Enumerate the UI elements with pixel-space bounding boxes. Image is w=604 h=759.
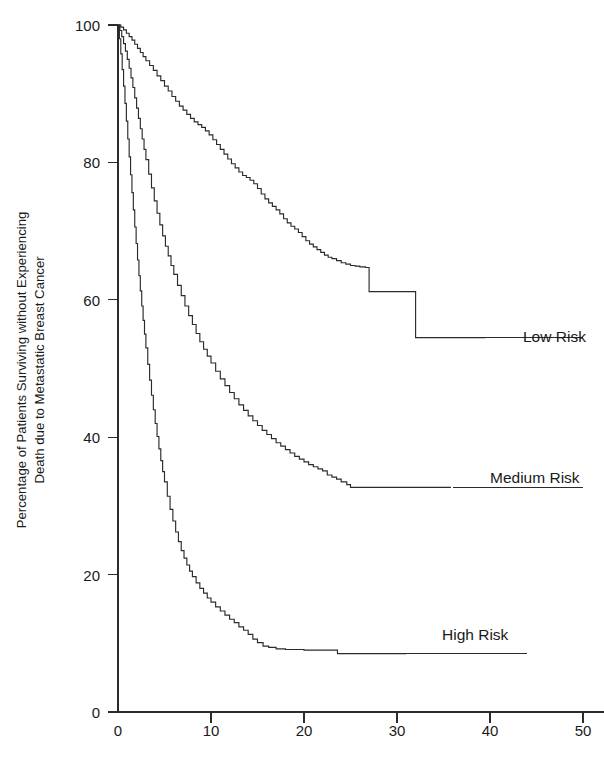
legend-group: Low Risk Medium Risk High Risk xyxy=(406,328,586,654)
kaplan-meier-figure: 100 80 60 40 20 0 0 10 20 30 40 xyxy=(0,0,604,759)
survival-curve-low-risk xyxy=(118,25,485,338)
x-tick-label-10: 10 xyxy=(203,722,220,739)
x-tick-label-20: 20 xyxy=(296,722,313,739)
y-tick-group: 100 80 60 40 20 0 xyxy=(75,17,118,721)
legend-label-low-risk: Low Risk xyxy=(523,328,586,345)
axes-group xyxy=(118,25,604,712)
x-tick-label-0: 0 xyxy=(114,722,122,739)
y-tick-label-100: 100 xyxy=(75,17,100,34)
x-tick-label-30: 30 xyxy=(389,722,406,739)
y-tick-label-20: 20 xyxy=(83,567,100,584)
y-tick-label-0: 0 xyxy=(92,704,100,721)
survival-curve-layer xyxy=(118,25,485,654)
y-tick-label-60: 60 xyxy=(83,292,100,309)
y-tick-label-80: 80 xyxy=(83,154,100,171)
survival-curve-high-risk xyxy=(118,25,406,654)
y-axis-title-group: Percentage of Patients Surviving without… xyxy=(14,212,47,529)
survival-curve-medium-risk xyxy=(118,25,451,487)
legend-label-medium-risk: Medium Risk xyxy=(490,469,580,486)
y-axis-title-line-2: Death due to Metastatic Breast Cancer xyxy=(32,256,47,484)
legend-label-high-risk: High Risk xyxy=(442,626,509,643)
y-tick-label-40: 40 xyxy=(83,429,100,446)
y-axis-title-line-1: Percentage of Patients Surviving without… xyxy=(14,212,29,529)
x-tick-label-50: 50 xyxy=(575,722,592,739)
survival-chart-canvas: 100 80 60 40 20 0 0 10 20 30 40 xyxy=(0,0,604,759)
x-tick-label-40: 40 xyxy=(482,722,499,739)
x-tick-group: 0 10 20 30 40 50 xyxy=(114,700,592,739)
